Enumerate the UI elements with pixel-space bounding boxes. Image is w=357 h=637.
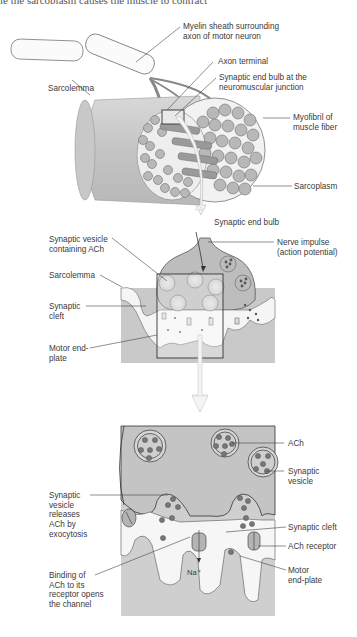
bottom-panel-illustration <box>90 396 286 616</box>
detail-highlight-box <box>157 274 223 358</box>
label-synaptic-end-bulb-nmj: Synaptic end bulb at the neuromuscular j… <box>219 73 307 92</box>
label-synaptic-end-bulb: Synaptic end bulb <box>214 218 279 228</box>
label-ach-receptor: ACh receptor <box>288 542 336 552</box>
myelin-segment-1 <box>11 39 84 62</box>
label-synaptic-vesicle-ach: Synaptic vesicle containing ACh <box>49 235 108 254</box>
label-motor-end-plate-bottom: Motor end-plate <box>288 566 322 585</box>
label-myelin-sheath: Myelin sheath surrounding axon of motor … <box>183 22 279 41</box>
label-synaptic-cleft-middle: Synaptic cleft <box>49 302 80 321</box>
label-axon-terminal: Axon terminal <box>218 57 268 67</box>
label-ach: ACh <box>288 439 304 449</box>
label-binding-of-ach: Binding of ACh to its receptor opens the… <box>49 571 104 610</box>
label-sarcolemma-middle: Sarcolemma <box>49 271 95 281</box>
middle-panel-illustration <box>86 205 275 412</box>
label-sarcolemma-top: Sarcolemma <box>48 84 94 94</box>
label-synaptic-cleft-bottom: Synaptic cleft <box>288 523 337 533</box>
label-motor-end-plate-middle: Motor end- plate <box>49 344 89 363</box>
top-panel-illustration <box>11 27 292 215</box>
label-synaptic-vesicle: Synaptic vesicle <box>288 467 319 486</box>
label-exocytosis: Synaptic vesicle releases ACh by exocyto… <box>49 491 87 540</box>
label-myofibril: Myofibril of muscle fiber <box>293 113 337 132</box>
label-sarcoplasm: Sarcoplasm <box>294 182 337 192</box>
label-nerve-impulse: Nerve impulse (action potential) <box>277 238 338 257</box>
label-sodium-ion: Na⁺ <box>187 568 201 578</box>
